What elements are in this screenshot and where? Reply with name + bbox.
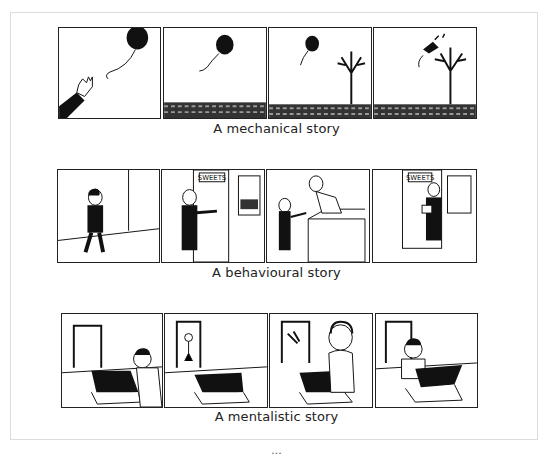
balloon-floating-illustration xyxy=(164,28,266,118)
girl-paying-shopkeeper-illustration xyxy=(267,170,369,262)
mother-eats-sweets-illustration xyxy=(270,314,372,407)
mentalistic-panel-3 xyxy=(269,313,373,408)
mechanical-panel-4 xyxy=(373,27,477,119)
behavioural-panel-3 xyxy=(266,169,370,263)
boy-leaves-room-illustration xyxy=(165,314,267,407)
behavioural-story-caption: A behavioural story xyxy=(0,265,553,280)
girl-walking-illustration xyxy=(58,170,159,262)
figure-source-caption: ... xyxy=(0,444,553,457)
mechanical-panel-2 xyxy=(163,27,267,119)
boy-finds-empty-box-illustration xyxy=(376,314,477,407)
boy-hiding-sweets-illustration xyxy=(62,314,162,407)
svg-text:SWEETS: SWEETS xyxy=(198,174,226,182)
mentalistic-panel-2 xyxy=(164,313,268,408)
balloon-burst-illustration xyxy=(374,28,476,118)
mechanical-story-caption: A mechanical story xyxy=(0,121,553,136)
mechanical-panel-1 xyxy=(58,27,161,119)
svg-text:SWEETS: SWEETS xyxy=(406,174,434,182)
mechanical-panel-3 xyxy=(268,27,372,119)
mentalistic-panel-1 xyxy=(61,313,163,408)
girl-leaving-shop-illustration: SWEETS xyxy=(373,170,476,262)
mentalistic-panel-4 xyxy=(375,313,478,408)
behavioural-panel-1 xyxy=(57,169,160,263)
behavioural-panel-4: SWEETS xyxy=(372,169,477,263)
balloon-release-illustration xyxy=(59,28,160,118)
mentalistic-story-caption: A mentalistic story xyxy=(0,409,553,424)
balloon-near-tree-illustration xyxy=(269,28,371,118)
girl-at-shop-door-illustration: SWEETS xyxy=(162,170,264,262)
behavioural-panel-2: SWEETS xyxy=(161,169,265,263)
